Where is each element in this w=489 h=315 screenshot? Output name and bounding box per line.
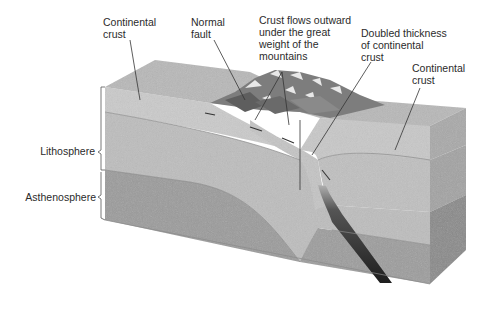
layer-bracket [98,87,105,220]
label-lithosphere: Lithosphere [0,145,95,157]
label-normal-fault: Normal fault [191,16,225,40]
label-continental-crust-left: Continental crust [103,16,156,40]
label-doubled-thickness: Doubled thickness of continental crust [361,27,447,63]
label-continental-crust-right: Continental crust [412,62,465,86]
block-diagram: Continental crust Normal fault Crust flo… [0,0,489,315]
label-asthenosphere: Asthenosphere [0,191,96,203]
label-crust-flows-outward: Crust flows outward under the great weig… [259,14,351,62]
